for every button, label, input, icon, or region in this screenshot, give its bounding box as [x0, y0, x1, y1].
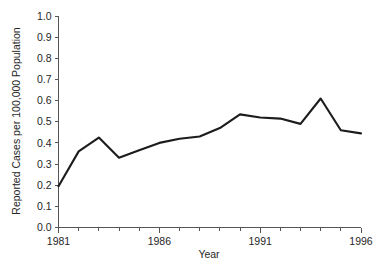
- y-tick-label: 0.4: [37, 137, 52, 149]
- y-tick-label: 0.6: [37, 94, 52, 106]
- x-tick-label: 1981: [47, 235, 71, 247]
- y-tick-label: 1.0: [37, 10, 52, 22]
- y-tick-label: 0.0: [37, 221, 52, 233]
- y-tick-label: 0.8: [37, 52, 52, 64]
- y-tick-label: 0.2: [37, 179, 52, 191]
- y-tick-label: 0.7: [37, 73, 52, 85]
- x-tick-label: 1991: [248, 235, 272, 247]
- x-axis-title: Year: [198, 248, 220, 260]
- y-tick-label: 0.1: [37, 200, 52, 212]
- x-tick-label: 1986: [148, 235, 172, 247]
- line-chart: 0.00.10.20.30.40.50.60.70.80.91.0 Report…: [0, 0, 381, 269]
- y-axis-title: Reported Cases per 100,000 Population: [10, 27, 22, 215]
- y-tick-label: 0.3: [37, 158, 52, 170]
- x-tick-label: 1996: [349, 235, 373, 247]
- y-tick-label: 0.9: [37, 31, 52, 43]
- y-tick-label: 0.5: [37, 115, 52, 127]
- chart-background: [0, 0, 381, 269]
- chart-canvas: 0.00.10.20.30.40.50.60.70.80.91.0 Report…: [0, 0, 381, 269]
